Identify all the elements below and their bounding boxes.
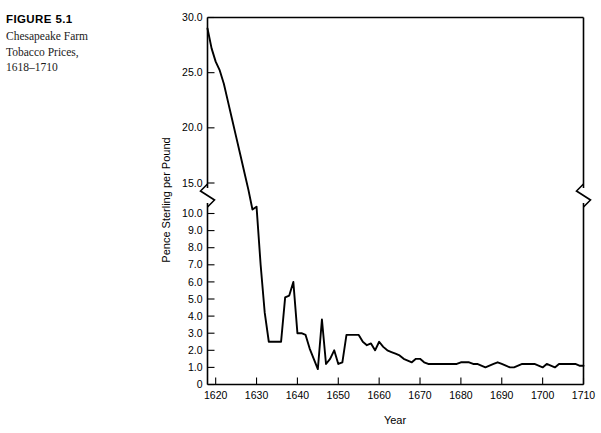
y-tick-label: 25.0 [182,66,203,78]
y-tick-label: 15.0 [182,177,203,189]
x-tick-label: 1670 [408,389,432,401]
data-series-line [208,29,584,370]
axis-break-marks [201,184,591,207]
chart-container: 15.020.025.030.001.02.03.04.05.06.07.08.… [0,0,601,433]
y-tick-label: 10.0 [182,207,203,219]
x-tick-label: 1650 [327,389,351,401]
x-axis-title: Year [384,414,407,426]
x-tick-label: 1640 [286,389,310,401]
x-tick-label: 1700 [531,389,555,401]
y-tick-label: 1.0 [188,361,203,373]
y-tick-label: 3.0 [188,327,203,339]
line-chart: 15.020.025.030.001.02.03.04.05.06.07.08.… [0,0,601,433]
y-tick-label: 4.0 [188,310,203,322]
y-axis-title: Pence Sterling per Pound [160,137,172,262]
y-tick-label: 6.0 [188,276,203,288]
y-tick-label: 9.0 [188,224,203,236]
x-axis-ticks: 1620163016401650166016701680169017001710 [204,378,595,401]
y-tick-label: 0 [197,378,203,390]
y-tick-label: 30.0 [182,11,203,23]
x-tick-label: 1660 [367,389,391,401]
plot-frame [208,18,584,385]
x-tick-label: 1620 [204,389,228,401]
figure-root: FIGURE 5.1 Chesapeake Farm Tobacco Price… [0,0,601,433]
y-tick-label: 2.0 [188,344,203,356]
x-tick-label: 1680 [449,389,473,401]
x-tick-label: 1630 [245,389,269,401]
x-tick-label: 1710 [572,389,596,401]
y-axis-ticks: 15.020.025.030.001.02.03.04.05.06.07.08.… [182,11,214,390]
y-tick-label: 20.0 [182,121,203,133]
x-tick-label: 1690 [490,389,514,401]
y-tick-label: 5.0 [188,293,203,305]
y-tick-label: 7.0 [188,258,203,270]
y-tick-label: 8.0 [188,241,203,253]
